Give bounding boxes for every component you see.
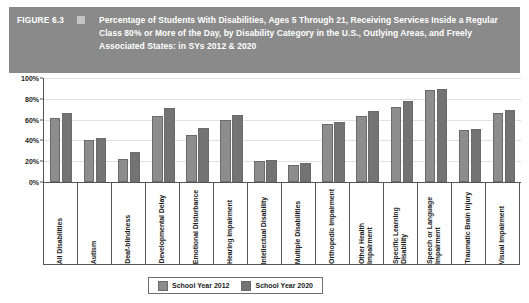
bar-group	[44, 78, 78, 182]
bar-group	[146, 78, 180, 182]
bar	[425, 90, 436, 182]
x-axis-category-label: Orthopedic Impairment	[328, 187, 336, 264]
bar	[84, 140, 95, 182]
y-axis-tick-label: 60%	[25, 116, 39, 123]
x-axis-category-label: Speech or Language Impairment	[426, 183, 442, 264]
bar	[391, 107, 402, 182]
chart-area: 100%80%60%40%20%0% All DisabilitiesAutis…	[9, 78, 520, 296]
figure-number-label: FIGURE 6.3	[17, 14, 75, 25]
x-axis-category-cell: Orthopedic Impairment	[315, 183, 349, 264]
x-axis-category-label: Hearing Impairment	[226, 198, 234, 264]
bar-group	[419, 78, 453, 182]
y-axis: 100%80%60%40%20%0%	[9, 78, 43, 182]
figure-container: FIGURE 6.3 Percentage of Students With D…	[0, 0, 529, 303]
legend-item: School Year 2020	[241, 281, 312, 291]
bar-group	[453, 78, 487, 182]
bar-group	[351, 78, 385, 182]
bar	[300, 163, 311, 182]
bar	[50, 118, 61, 182]
bar-group	[214, 78, 248, 182]
bar-group	[180, 78, 214, 182]
bar	[322, 124, 333, 182]
bars-layer	[44, 78, 521, 182]
y-axis-tick-label: 20%	[25, 158, 39, 165]
bar	[164, 108, 175, 182]
x-axis-category-labels: All DisabilitiesAutismDeaf-blindnessDeve…	[43, 183, 520, 265]
figure-header-banner: FIGURE 6.3 Percentage of Students With D…	[9, 7, 520, 73]
legend-label: School Year 2012	[172, 282, 229, 289]
bar	[493, 113, 504, 182]
bar-group	[248, 78, 282, 182]
bar	[254, 161, 265, 182]
x-axis-category-cell: Visual Impairment	[485, 183, 520, 264]
x-axis-category-label: Specific Learning Disability	[392, 183, 408, 264]
bar	[62, 113, 73, 182]
bar	[505, 110, 516, 182]
bar	[232, 115, 243, 182]
y-axis-tick-label: 40%	[25, 137, 39, 144]
bar	[220, 120, 231, 182]
bar	[437, 89, 448, 182]
legend-item: School Year 2012	[158, 281, 229, 291]
bar-group	[283, 78, 317, 182]
x-axis-category-cell: Hearing Impairment	[213, 183, 247, 264]
legend-swatch	[158, 281, 168, 291]
x-axis-category-cell: Traumatic Brain Injury	[451, 183, 485, 264]
bar	[118, 159, 129, 182]
bar	[459, 130, 470, 182]
x-axis-category-cell: Autism	[77, 183, 111, 264]
x-axis-category-label: Emotional Disturbance	[192, 188, 200, 264]
bar	[356, 116, 367, 182]
bar	[266, 160, 277, 182]
x-axis-category-cell: Deaf-blindness	[111, 183, 145, 264]
x-axis-category-label: Intellectual Disability	[260, 195, 268, 264]
x-axis-category-label: Traumatic Brain Injury	[464, 190, 472, 264]
x-axis-category-label: Developmental Delay	[158, 193, 166, 264]
x-axis-category-cell: Specific Learning Disability	[383, 183, 417, 264]
x-axis-category-cell: Multiple Disabilities	[281, 183, 315, 264]
figure-title: Percentage of Students With Disabilities…	[99, 14, 512, 54]
legend-swatch	[241, 281, 251, 291]
bar	[96, 138, 107, 182]
x-axis-category-label: Multiple Disabilities	[294, 199, 302, 264]
plot-region	[43, 78, 521, 183]
x-axis-category-cell: Developmental Delay	[145, 183, 179, 264]
bar-group	[78, 78, 112, 182]
y-axis-tick-label: 0%	[29, 179, 39, 186]
bar	[152, 116, 163, 182]
x-axis-category-cell: All Disabilities	[43, 183, 77, 264]
bar-group	[487, 78, 521, 182]
x-axis-category-cell: Emotional Disturbance	[179, 183, 213, 264]
bar-group	[317, 78, 351, 182]
bar	[130, 152, 141, 182]
x-axis-category-label: Deaf-blindness	[124, 213, 132, 264]
x-axis-category-cell: Other Health Impairment	[349, 183, 383, 264]
bar	[198, 128, 209, 182]
chart-legend: School Year 2012School Year 2020	[148, 277, 323, 294]
y-axis-tick-label: 80%	[25, 95, 39, 102]
bar	[403, 101, 414, 182]
bar	[471, 129, 482, 182]
bar	[186, 135, 197, 182]
x-axis-category-label: Other Health Impairment	[358, 183, 374, 264]
bar-group	[385, 78, 419, 182]
x-axis-category-cell: Speech or Language Impairment	[417, 183, 451, 264]
bar	[334, 122, 345, 182]
x-axis-category-label: Visual Impairment	[498, 204, 506, 264]
square-marker-icon	[77, 16, 85, 24]
x-axis-category-cell: Intellectual Disability	[247, 183, 281, 264]
x-axis-category-label: Autism	[90, 239, 98, 264]
bar	[368, 111, 379, 182]
bar	[288, 165, 299, 182]
x-axis-category-label: All Disabilities	[56, 216, 64, 264]
bar-group	[112, 78, 146, 182]
legend-label: School Year 2020	[255, 282, 312, 289]
y-axis-tick-label: 100%	[21, 75, 39, 82]
